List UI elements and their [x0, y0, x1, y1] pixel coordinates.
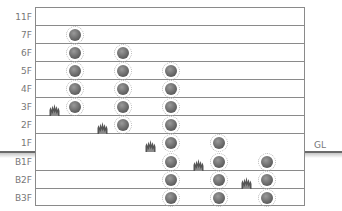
smoke-detector-icon[interactable]: [162, 80, 180, 98]
floor-label: 4F: [0, 84, 32, 94]
ground-level-shadow-right: [305, 153, 342, 158]
floor-label: B3F: [0, 193, 32, 203]
fire-icon: [49, 101, 60, 113]
smoke-detector-icon[interactable]: [66, 44, 84, 62]
smoke-detector-icon[interactable]: [162, 134, 180, 152]
floor-label: 11F: [0, 12, 32, 22]
smoke-detector-icon[interactable]: [66, 98, 84, 116]
floor-label: B2F: [0, 175, 32, 185]
smoke-detector-icon[interactable]: [114, 62, 132, 80]
ground-level-label: GL: [314, 140, 326, 150]
smoke-detector-icon[interactable]: [258, 189, 276, 207]
smoke-detector-icon[interactable]: [162, 171, 180, 189]
fire-icon: [241, 174, 252, 186]
floor-label: 1F: [0, 138, 32, 148]
smoke-detector-icon[interactable]: [210, 171, 228, 189]
floor-label: 6F: [0, 48, 32, 58]
smoke-detector-icon[interactable]: [258, 171, 276, 189]
smoke-detector-icon[interactable]: [114, 116, 132, 134]
smoke-detector-icon[interactable]: [66, 80, 84, 98]
fire-icon: [145, 137, 156, 149]
floor-label: 7F: [0, 30, 32, 40]
floor-label: 3F: [0, 102, 32, 112]
smoke-detector-icon[interactable]: [162, 98, 180, 116]
smoke-detector-icon[interactable]: [114, 80, 132, 98]
floor-label: B1F: [0, 157, 32, 167]
smoke-detector-icon[interactable]: [210, 189, 228, 207]
smoke-detector-icon[interactable]: [66, 62, 84, 80]
fire-icon: [97, 119, 108, 131]
smoke-detector-icon[interactable]: [210, 153, 228, 171]
floor-label: 2F: [0, 120, 32, 130]
smoke-detector-icon[interactable]: [258, 153, 276, 171]
smoke-detector-icon[interactable]: [114, 98, 132, 116]
fire-icon: [193, 156, 204, 168]
smoke-detector-icon[interactable]: [162, 189, 180, 207]
smoke-detector-icon[interactable]: [162, 116, 180, 134]
smoke-detector-icon[interactable]: [210, 134, 228, 152]
smoke-detector-icon[interactable]: [114, 44, 132, 62]
smoke-detector-icon[interactable]: [162, 62, 180, 80]
smoke-detector-icon[interactable]: [66, 26, 84, 44]
smoke-detector-icon[interactable]: [162, 153, 180, 171]
floor-label: 5F: [0, 66, 32, 76]
